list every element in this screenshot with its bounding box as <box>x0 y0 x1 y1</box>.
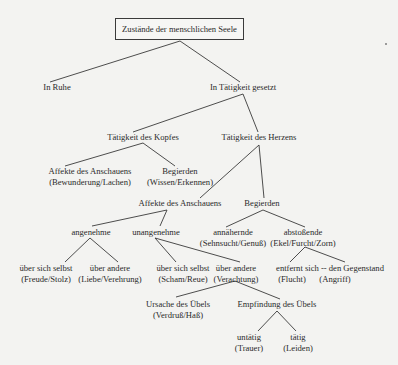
node-label: annähernde <box>200 227 266 238</box>
node-label: tätig <box>283 332 313 343</box>
node-label: über sich selbst <box>20 263 73 274</box>
node-label: unangenehme <box>132 227 180 238</box>
node-angriff: (Angriff) <box>319 274 350 285</box>
node-sublabel: (Leiden) <box>283 343 313 354</box>
node-label: entfernt sich -- den Gegenstand <box>276 263 384 274</box>
node-sublabel: (Verdruß/Haß) <box>146 310 210 321</box>
node-sublabel: (Bewunderung/Lachen) <box>49 177 132 188</box>
node-kopf-begierden: Begierden (Wissen/Erkennen) <box>147 166 213 187</box>
node-label: Begierden <box>147 166 213 177</box>
node-kopf-affekte: Affekte des Anschauens (Bewunderung/Lach… <box>49 166 132 187</box>
scan-speck <box>385 43 387 45</box>
node-sublabel: (Wissen/Erkennen) <box>147 177 213 188</box>
node-angenehme-andere: über andere (Liebe/Verehrung) <box>78 263 141 284</box>
node-in-ruhe: In Ruhe <box>43 82 70 93</box>
node-label: Tätigkeit des Herzens <box>222 132 297 143</box>
node-herz-begierden: Begierden <box>244 198 279 209</box>
node-sublabel: (Flucht) <box>278 274 306 285</box>
node-ursache: Ursache des Übels (Verdruß/Haß) <box>146 299 210 320</box>
node-sublabel: (Ekel/Furcht/Zorn) <box>270 238 335 249</box>
node-angenehme-selbst: über sich selbst (Freude/Stolz) <box>20 263 73 284</box>
node-sublabel: (Angriff) <box>319 274 350 285</box>
node-label: In Ruhe <box>43 82 70 93</box>
node-label: In Tätigkeit gesetzt <box>210 82 276 93</box>
node-sublabel: (Verachtung) <box>214 274 259 285</box>
node-untaetig: untätig (Trauer) <box>235 332 263 353</box>
node-abstossende: abstoßende (Ekel/Furcht/Zorn) <box>270 227 335 248</box>
node-taetig: tätig (Leiden) <box>283 332 313 353</box>
node-annaehernde: annähernde (Sehnsucht/Genuß) <box>200 227 266 248</box>
node-flucht: (Flucht) <box>278 274 306 285</box>
node-label: angenehme <box>71 227 110 238</box>
node-label: abstoßende <box>270 227 335 238</box>
tree-diagram: Zustände der menschlichen Seele In Ruhe … <box>0 0 398 365</box>
node-taetigkeit-kopf: Tätigkeit des Kopfes <box>107 132 179 143</box>
node-entfernt-gegenstand: entfernt sich -- den Gegenstand <box>276 263 384 274</box>
node-sublabel: (Freude/Stolz) <box>20 274 73 285</box>
node-label: Affekte des Anschauens <box>49 166 132 177</box>
node-sublabel: (Liebe/Verehrung) <box>78 274 141 285</box>
node-sublabel: (Trauer) <box>235 343 263 354</box>
node-sublabel: (Sehnsucht/Genuß) <box>200 238 266 249</box>
node-taetigkeit-herz: Tätigkeit des Herzens <box>222 132 297 143</box>
node-angenehme: angenehme <box>71 227 110 238</box>
node-sublabel: (Scham/Reue) <box>157 274 210 285</box>
node-unangenehme-andere: über andere (Verachtung) <box>214 263 259 284</box>
node-unangenehme: unangenehme <box>132 227 180 238</box>
node-label: untätig <box>235 332 263 343</box>
node-label: Tätigkeit des Kopfes <box>107 132 179 143</box>
node-label: Ursache des Übels <box>146 299 210 310</box>
node-label: Begierden <box>244 198 279 209</box>
node-label: über andere <box>214 263 259 274</box>
node-herz-affekte: Affekte des Anschauens <box>139 198 222 209</box>
node-label: Empfindung des Übels <box>238 299 317 310</box>
node-label: über andere <box>78 263 141 274</box>
node-unangenehme-selbst: über sich selbst (Scham/Reue) <box>157 263 210 284</box>
root-node: Zustände der menschlichen Seele <box>115 18 244 40</box>
node-in-taetigkeit: In Tätigkeit gesetzt <box>210 82 276 93</box>
node-label: Affekte des Anschauens <box>139 198 222 209</box>
node-label: über sich selbst <box>157 263 210 274</box>
root-label: Zustände der menschlichen Seele <box>122 24 237 34</box>
node-empfindung: Empfindung des Übels <box>238 299 317 310</box>
